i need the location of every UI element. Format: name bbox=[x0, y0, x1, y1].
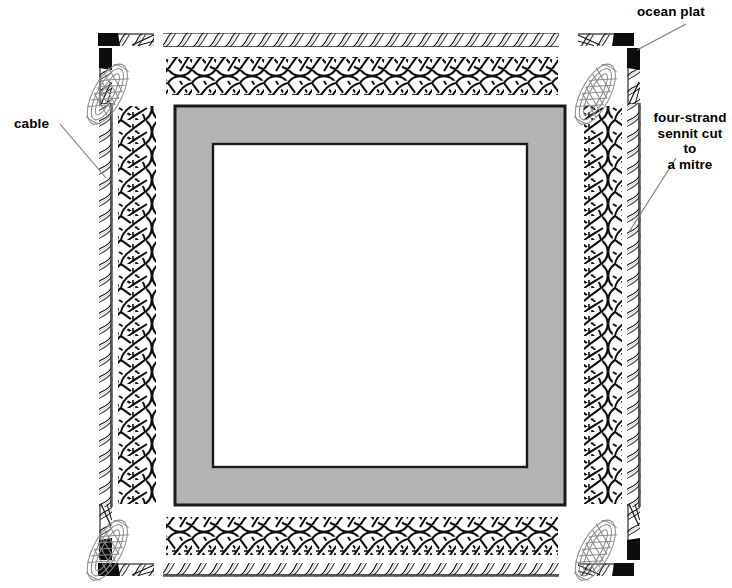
picture-frame-mat bbox=[175, 106, 565, 505]
top-right-cable-stub bbox=[578, 33, 634, 46]
bottom-right-cable-stub bbox=[578, 563, 634, 576]
bottom-cable-run bbox=[163, 563, 559, 577]
left-sennit-run bbox=[118, 106, 156, 504]
ocean-plat-leader bbox=[637, 24, 686, 50]
left-cable-run bbox=[99, 103, 113, 507]
right-bottom-cable-stub bbox=[627, 504, 640, 560]
top-cable-run bbox=[163, 33, 559, 47]
label-four-strand-sennit: four-strand sennit cut to a mitre bbox=[650, 110, 730, 172]
top-sennit-run bbox=[166, 57, 558, 95]
bottom-sennit-run bbox=[166, 517, 558, 555]
right-top-cable-stub bbox=[627, 48, 640, 104]
label-cable: cable bbox=[14, 116, 49, 132]
label-ocean-plat: ocean plat bbox=[637, 4, 705, 20]
illustration-layer bbox=[0, 0, 732, 588]
right-sennit-run bbox=[584, 106, 622, 504]
right-cable-run bbox=[627, 103, 641, 507]
top-left-cable-stub bbox=[98, 33, 154, 46]
figure-canvas: ocean plat cable four-strand sennit cut … bbox=[0, 0, 732, 588]
